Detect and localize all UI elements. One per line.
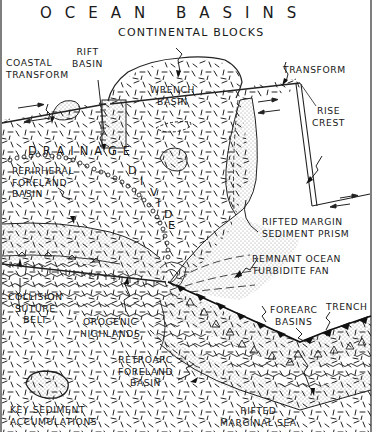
label-retroarc-foreland-basin: RETROARC FORELAND BASIN: [118, 354, 173, 389]
label-remnant-ocean-turbidite-fan: REMNANT OCEAN TURBIDITE FAN: [252, 253, 341, 276]
subtitle-continental-blocks: CONTINENTAL BLOCKS: [118, 26, 264, 39]
tectonic-sediment-diagram: OCEAN BASINS CONTINENTAL BLOCKS COASTAL …: [0, 0, 374, 432]
label-divide-2: I: [140, 175, 143, 188]
label-coastal-transform: COASTAL TRANSFORM: [6, 57, 69, 80]
label-key-sediment-accumulations: KEY SEDIMENT ACCUMULATIONS: [10, 404, 97, 427]
label-peripheral-foreland-basin: PERIPHERAL FORELAND BASIN: [12, 165, 74, 200]
label-divide-1: D: [128, 164, 136, 177]
label-orogenic-highlands: OROGENIC HIGHLANDS: [80, 316, 140, 339]
transform-lower: [312, 194, 370, 206]
label-rift-basin: RIFT BASIN: [72, 46, 103, 69]
label-rifted-marginal-sea: RIFTED MARGINAL SEA: [220, 405, 297, 428]
label-divide-6: E: [168, 219, 175, 232]
title-ocean-basins: OCEAN BASINS: [40, 4, 309, 22]
label-trench: TRENCH: [326, 301, 368, 313]
label-transform: TRANSFORM: [283, 64, 346, 76]
label-drainage: DRAINAGE: [28, 144, 136, 158]
label-rise-crest: RISE CREST: [312, 105, 345, 128]
label-forearc-basins: FOREARC BASINS: [270, 304, 318, 327]
label-divide-4: I: [157, 197, 160, 210]
label-rifted-margin-sediment-prism: RIFTED MARGIN SEDIMENT PRISM: [262, 216, 349, 239]
rift-basin: [102, 100, 126, 148]
label-collision-suture-belt: COLLISION SUTURE BELT: [8, 291, 63, 326]
label-wrench-basin: WRENCH BASIN: [150, 84, 195, 107]
